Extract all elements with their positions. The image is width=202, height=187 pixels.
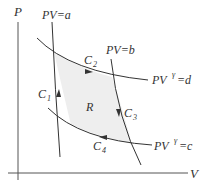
label-c1: C 1 — [38, 87, 51, 103]
svg-text:C: C — [84, 53, 93, 67]
svg-text:γ: γ — [172, 70, 176, 79]
label-pv-b: PV=b — [105, 43, 135, 57]
svg-text:C: C — [124, 106, 133, 120]
svg-text:γ: γ — [174, 136, 178, 145]
label-c3: C 3 — [124, 106, 137, 122]
svg-text:4: 4 — [102, 146, 106, 155]
arrow-up-icon — [56, 89, 61, 97]
label-pv-gamma-d: PV γ =d — [151, 70, 192, 87]
svg-text:PV: PV — [151, 73, 168, 87]
label-c4: C 4 — [93, 139, 106, 155]
curve-c1-isotherm-a — [52, 22, 60, 157]
region-label: R — [85, 100, 94, 114]
svg-text:2: 2 — [93, 60, 97, 69]
label-pv-a: PV=a — [41, 8, 71, 22]
pv-diagram: P V PV=a PV=b PV γ =d PV γ =c C 1 C 2 C … — [0, 0, 202, 187]
label-c2: C 2 — [84, 53, 97, 69]
label-pv-gamma-c: PV γ =c — [153, 136, 193, 153]
svg-text:=c: =c — [179, 139, 193, 153]
p-axis-label: P — [13, 4, 22, 19]
v-axis-label: V — [190, 166, 200, 181]
svg-text:C: C — [38, 87, 47, 101]
svg-text:C: C — [93, 139, 102, 153]
svg-text:1: 1 — [47, 94, 51, 103]
svg-text:=d: =d — [177, 73, 192, 87]
svg-text:PV: PV — [153, 139, 170, 153]
svg-text:3: 3 — [132, 113, 137, 122]
